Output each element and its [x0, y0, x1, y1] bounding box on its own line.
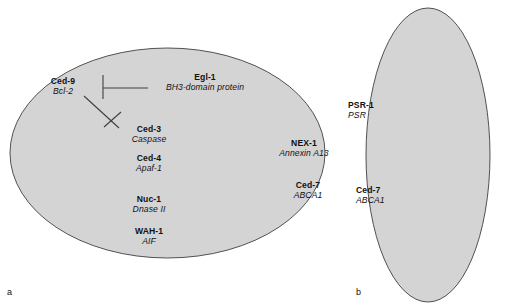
label-ced3-gene: Ced-3	[118, 124, 180, 134]
label-wah1-gene: WAH-1	[118, 226, 180, 236]
label-psr1-protein: PSR	[348, 110, 396, 120]
label-ced3-protein: Caspase	[118, 134, 180, 144]
label-egl1-protein: BH3-domain protein	[150, 82, 260, 92]
label-nuc1: Nuc-1 Dnase II	[118, 194, 180, 214]
label-wah1: WAH-1 AIF	[118, 226, 180, 246]
label-ced7-engulfing-cell-gene: Ced-7	[356, 185, 408, 195]
label-ced9-gene: Ced-9	[36, 76, 90, 86]
label-ced7-dying-cell-protein: ABCA1	[276, 190, 340, 200]
label-ced4: Ced-4 Apaf-1	[118, 153, 180, 173]
label-egl1-gene: Egl-1	[150, 72, 260, 82]
label-nuc1-gene: Nuc-1	[118, 194, 180, 204]
label-psr1: PSR-1 PSR	[348, 100, 396, 120]
panel-letter-b: b	[356, 287, 361, 297]
cell-shapes	[0, 0, 507, 308]
label-ced7-dying-cell-gene: Ced-7	[276, 180, 340, 190]
label-ced9: Ced-9 Bcl-2	[36, 76, 90, 96]
engulfing-cell-membrane	[366, 8, 490, 302]
label-ced4-protein: Apaf-1	[118, 163, 180, 173]
label-ced7-engulfing-cell: Ced-7 ABCA1	[356, 185, 408, 205]
apoptosis-pathway-figure: Ced-9 Bcl-2 Egl-1 BH3-domain protein Ced…	[0, 0, 507, 308]
label-nuc1-protein: Dnase II	[118, 204, 180, 214]
label-nex1-protein: Annexin A13	[268, 148, 340, 158]
label-nex1: NEX-1 Annexin A13	[268, 138, 340, 158]
label-ced9-protein: Bcl-2	[36, 86, 90, 96]
label-egl1: Egl-1 BH3-domain protein	[150, 72, 260, 92]
label-ced7-dying-cell: Ced-7 ABCA1	[276, 180, 340, 200]
label-ced3: Ced-3 Caspase	[118, 124, 180, 144]
panel-letter-a: a	[7, 287, 12, 297]
label-ced4-gene: Ced-4	[118, 153, 180, 163]
label-ced7-engulfing-cell-protein: ABCA1	[356, 195, 408, 205]
label-nex1-gene: NEX-1	[268, 138, 340, 148]
label-wah1-protein: AIF	[118, 236, 180, 246]
label-psr1-gene: PSR-1	[348, 100, 396, 110]
